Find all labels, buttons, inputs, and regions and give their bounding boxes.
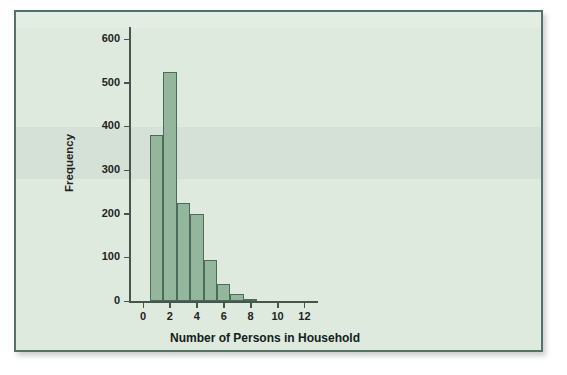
histogram-bar bbox=[163, 72, 176, 301]
y-tick-mark bbox=[124, 170, 129, 172]
y-tick-mark bbox=[124, 39, 129, 41]
y-tick-label: 300 bbox=[75, 163, 120, 175]
figure-canvas: Frequency Number of Persons in Household… bbox=[0, 0, 567, 375]
y-tick-mark bbox=[124, 82, 129, 84]
histogram-bar bbox=[217, 284, 230, 301]
histogram-bar bbox=[244, 299, 257, 301]
y-tick-label: 200 bbox=[75, 207, 120, 219]
y-tick-mark bbox=[124, 213, 129, 215]
y-tick-label: 400 bbox=[75, 119, 120, 131]
x-tick-mark bbox=[250, 303, 252, 308]
y-tick-mark bbox=[124, 257, 129, 259]
histogram-bar bbox=[190, 214, 203, 301]
x-tick-mark bbox=[277, 303, 279, 308]
x-tick-mark bbox=[169, 303, 171, 308]
x-tick-label: 12 bbox=[284, 310, 324, 322]
x-tick-mark bbox=[304, 303, 306, 308]
y-axis-line bbox=[129, 27, 131, 301]
histogram-bar bbox=[230, 294, 243, 301]
histogram-plot: Frequency Number of Persons in Household… bbox=[0, 0, 567, 375]
x-axis-label: Number of Persons in Household bbox=[100, 331, 430, 345]
y-tick-label: 600 bbox=[75, 32, 120, 44]
x-tick-mark bbox=[223, 303, 225, 308]
x-tick-mark bbox=[143, 303, 145, 308]
y-tick-mark bbox=[124, 126, 129, 128]
y-tick-label: 500 bbox=[75, 76, 120, 88]
y-tick-label: 0 bbox=[75, 294, 120, 306]
y-tick-label: 100 bbox=[75, 250, 120, 262]
histogram-bar bbox=[150, 135, 163, 301]
y-axis-label: Frequency bbox=[63, 134, 75, 192]
histogram-bar bbox=[204, 260, 217, 301]
y-tick-mark bbox=[124, 301, 129, 303]
histogram-bar bbox=[177, 203, 190, 301]
x-tick-mark bbox=[196, 303, 198, 308]
